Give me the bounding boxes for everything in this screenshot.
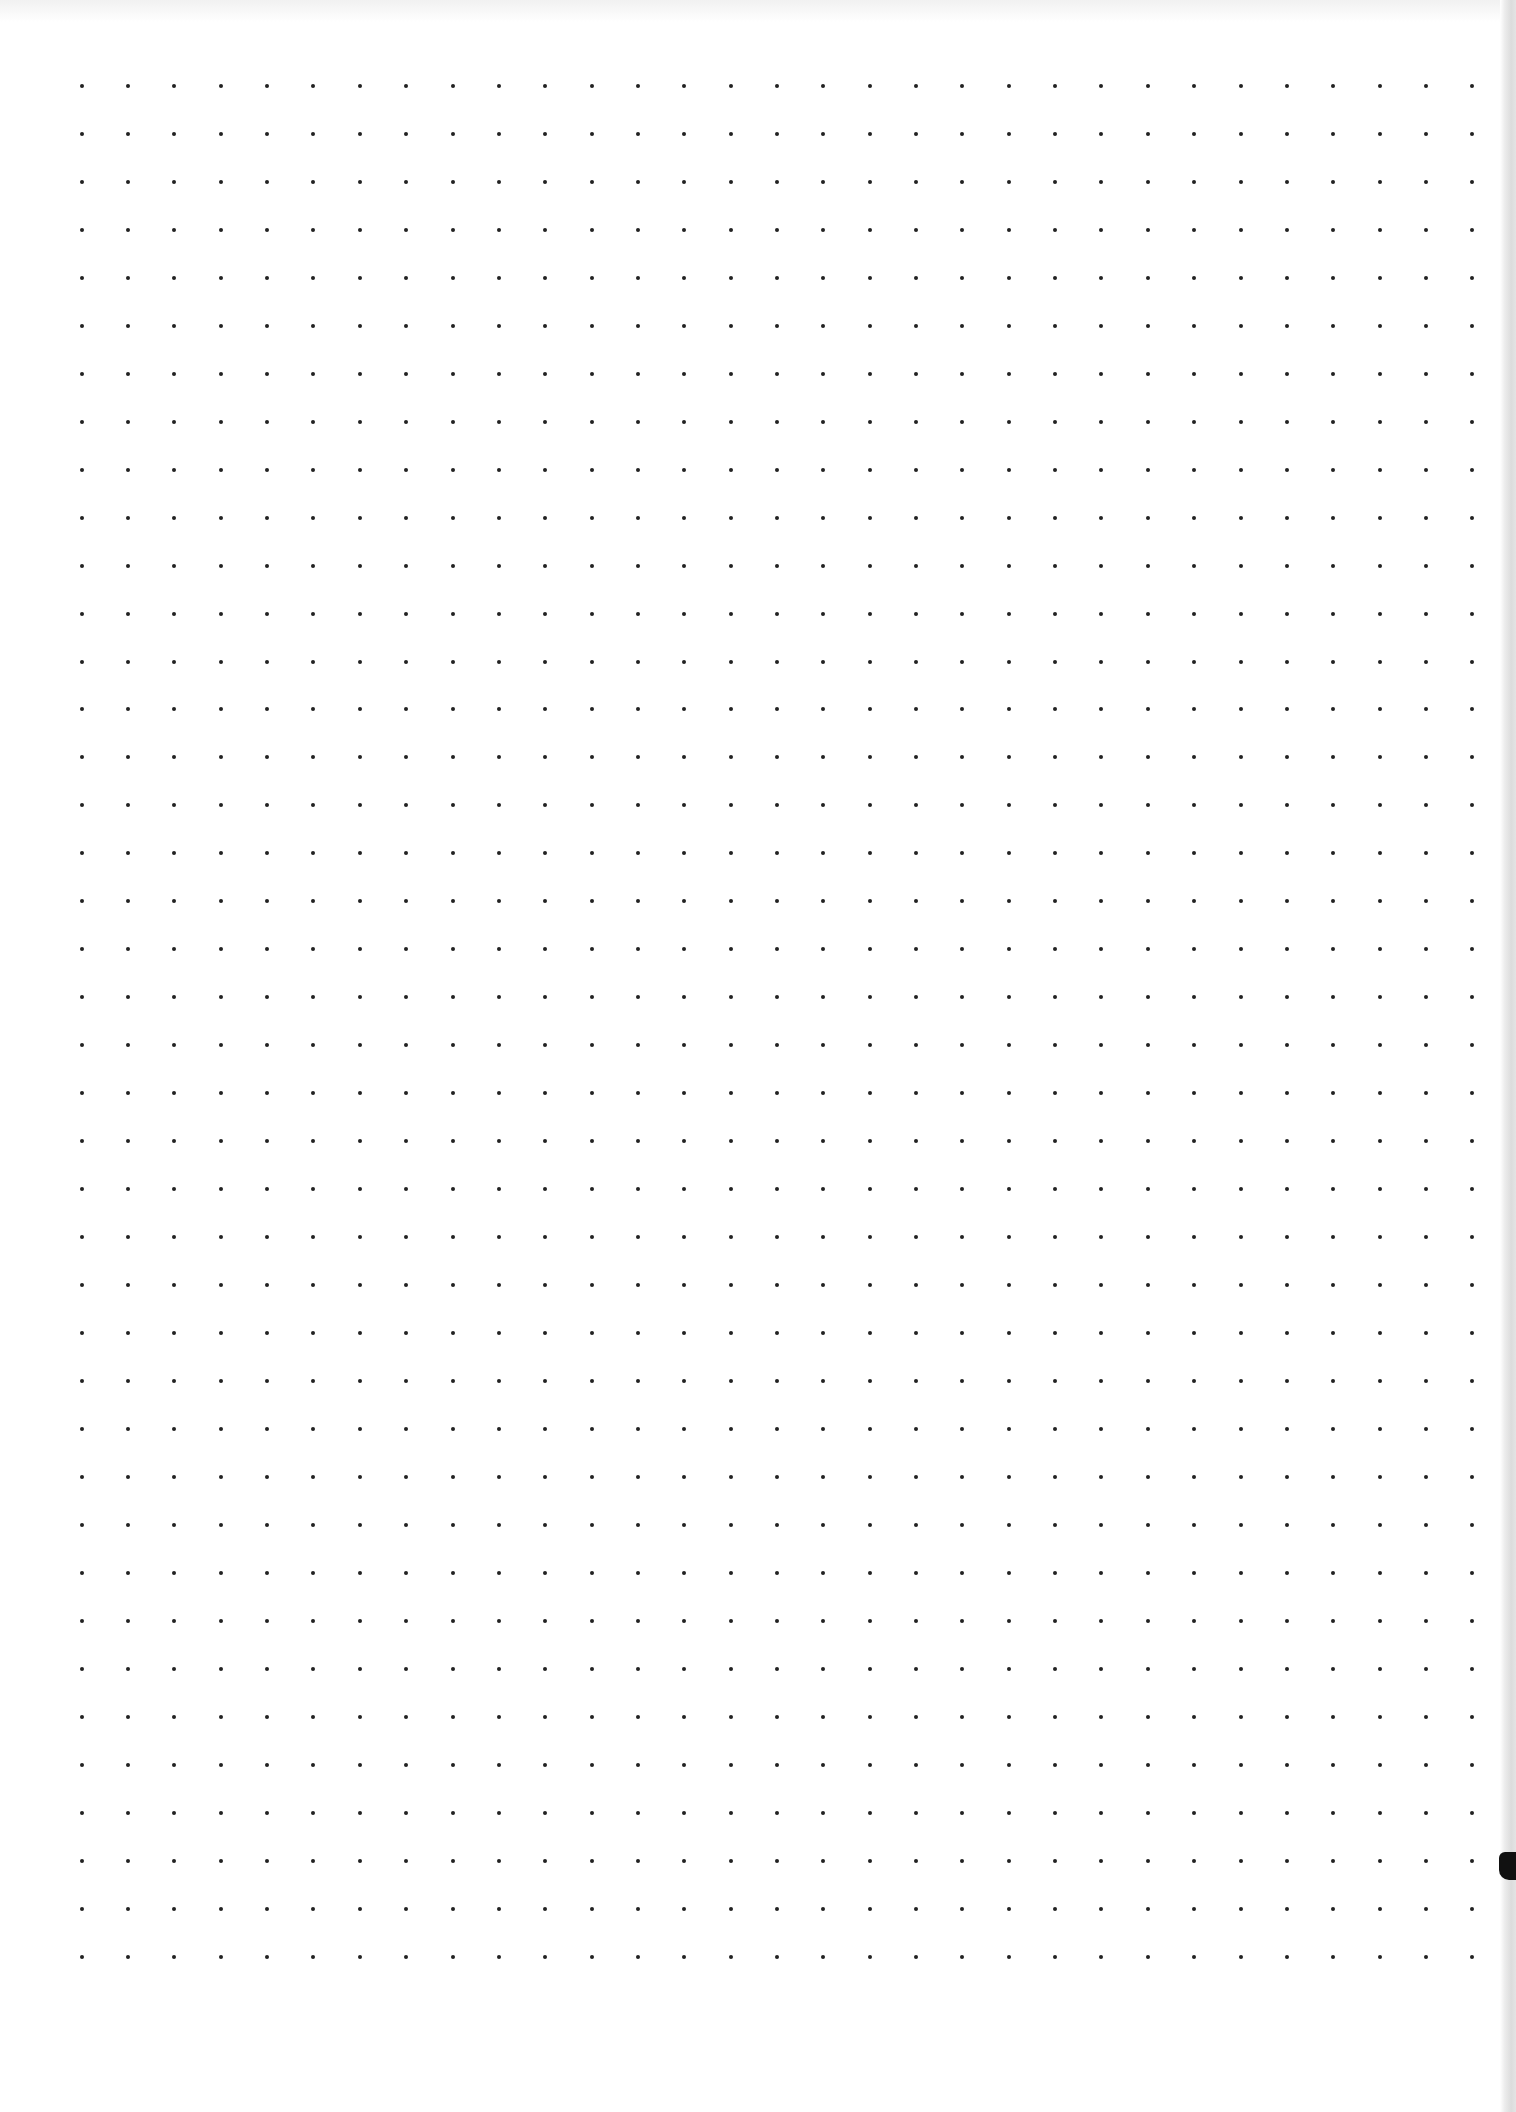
grid-dot [1146, 1427, 1150, 1431]
grid-dot [868, 420, 872, 424]
grid-dot [1146, 1955, 1150, 1959]
grid-dot [172, 420, 176, 424]
grid-dot [1239, 899, 1243, 903]
grid-dot [358, 1187, 362, 1191]
grid-dot [1378, 1283, 1382, 1287]
grid-dot [1331, 1283, 1335, 1287]
grid-dot [682, 947, 686, 951]
grid-dot [404, 1187, 408, 1191]
grid-dot [172, 1763, 176, 1767]
grid-dot [358, 1043, 362, 1047]
grid-dot [80, 276, 84, 280]
grid-dot [497, 1811, 501, 1815]
grid-dot [451, 899, 455, 903]
grid-dot [1099, 468, 1103, 472]
grid-dot [636, 803, 640, 807]
grid-dot [1378, 947, 1382, 951]
grid-dot [172, 947, 176, 951]
grid-dot [682, 1043, 686, 1047]
grid-dot [590, 1763, 594, 1767]
grid-dot [265, 1667, 269, 1671]
grid-dot [1331, 1763, 1335, 1767]
grid-dot [682, 851, 686, 855]
grid-dot [80, 755, 84, 759]
grid-dot [1146, 324, 1150, 328]
grid-dot [80, 468, 84, 472]
grid-dot [1239, 1907, 1243, 1911]
grid-dot [914, 899, 918, 903]
grid-dot [1007, 1427, 1011, 1431]
grid-dot [172, 1091, 176, 1095]
grid-dot [960, 516, 964, 520]
grid-dot [219, 1907, 223, 1911]
grid-dot [775, 1283, 779, 1287]
grid-dot [1285, 132, 1289, 136]
grid-dot [821, 1187, 825, 1191]
grid-dot [172, 564, 176, 568]
grid-dot [1146, 1475, 1150, 1479]
grid-dot [1007, 1235, 1011, 1239]
grid-dot [497, 1139, 501, 1143]
grid-dot [1285, 1715, 1289, 1719]
grid-dot [1053, 707, 1057, 711]
grid-dot [265, 468, 269, 472]
grid-dot [1007, 1907, 1011, 1911]
grid-dot [868, 660, 872, 664]
grid-dot [1146, 660, 1150, 664]
grid-dot [775, 420, 779, 424]
grid-dot [172, 899, 176, 903]
grid-dot [126, 564, 130, 568]
grid-dot [914, 1619, 918, 1623]
grid-dot [219, 1043, 223, 1047]
grid-dot [729, 564, 733, 568]
grid-dot [172, 1955, 176, 1959]
grid-dot [821, 1955, 825, 1959]
grid-dot [1146, 180, 1150, 184]
grid-dot [868, 1811, 872, 1815]
grid-dot [265, 132, 269, 136]
grid-dot [1285, 228, 1289, 232]
grid-dot [775, 1379, 779, 1383]
grid-dot [960, 1523, 964, 1527]
grid-dot [682, 1475, 686, 1479]
grid-dot [775, 324, 779, 328]
grid-dot [1146, 1523, 1150, 1527]
grid-dot [1331, 612, 1335, 616]
grid-dot [590, 995, 594, 999]
grid-dot [682, 1955, 686, 1959]
grid-dot [775, 1715, 779, 1719]
grid-dot [1053, 276, 1057, 280]
grid-dot [960, 1379, 964, 1383]
grid-dot [821, 420, 825, 424]
grid-dot [358, 1379, 362, 1383]
grid-dot [1331, 1331, 1335, 1335]
grid-dot [1099, 899, 1103, 903]
grid-dot [960, 1475, 964, 1479]
grid-dot [1239, 851, 1243, 855]
grid-dot [821, 1139, 825, 1143]
grid-dot [1331, 1043, 1335, 1047]
grid-dot [126, 947, 130, 951]
grid-dot [1099, 1523, 1103, 1527]
grid-dot [404, 84, 408, 88]
grid-dot [821, 1667, 825, 1671]
grid-dot [172, 851, 176, 855]
grid-dot [451, 1763, 455, 1767]
grid-dot [543, 1523, 547, 1527]
grid-dot [126, 132, 130, 136]
grid-dot [1285, 1811, 1289, 1815]
grid-dot [1285, 564, 1289, 568]
grid-dot [868, 468, 872, 472]
grid-dot [775, 1139, 779, 1143]
grid-dot [636, 1811, 640, 1815]
grid-dot [1285, 1763, 1289, 1767]
grid-dot [1331, 1187, 1335, 1191]
grid-dot [404, 1667, 408, 1671]
grid-dot [451, 1619, 455, 1623]
grid-dot [497, 1379, 501, 1383]
grid-dot [1192, 1427, 1196, 1431]
grid-dot [590, 1955, 594, 1959]
grid-dot [219, 1139, 223, 1143]
grid-dot [1099, 1139, 1103, 1143]
grid-dot [265, 420, 269, 424]
